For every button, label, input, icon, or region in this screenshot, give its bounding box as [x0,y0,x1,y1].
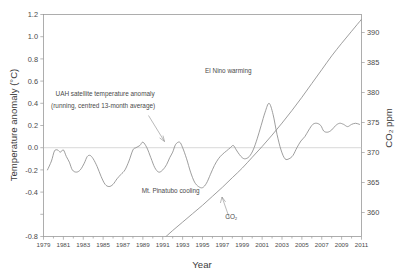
x-tick-label: 1985 [96,241,110,248]
uah-leader-arrowhead [160,136,165,142]
y2-tick-label: 390 [367,28,379,37]
y-tick-label: 0.4 [28,99,38,108]
uah-label-line1: UAH satellite temperature anomaly [56,90,156,98]
y-tick-label: 0.0 [28,143,38,152]
x-tick-label: 2009 [335,241,349,248]
y-tick-label: 0.6 [28,77,38,86]
y-tick-label: 1.2 [28,10,38,19]
plot-frame [44,15,362,237]
x-tick-label: 2007 [315,241,329,248]
x-axis-title: Year [192,259,212,270]
y-axis-ticks [40,15,43,237]
y2-tick-label: 385 [367,58,379,67]
y-axis-title: Temperature anomaly (°C) [8,69,19,182]
x-tick-label: 2005 [295,241,309,248]
y2-tick-label: 370 [367,148,379,157]
y-tick-label: -0.2 [25,166,38,175]
x-tick-label: 1979 [37,241,51,248]
y2-axis-ticks [362,33,365,213]
x-tick-label: 1987 [116,241,130,248]
x-axis-tick-labels: 1979198119831985198719891991199319951997… [37,241,369,248]
x-tick-label: 2001 [255,241,269,248]
el-nino-label: El Nino warming [205,67,252,75]
data-series [47,19,361,239]
uah-label-line2: (running, centred 13-month average) [51,102,155,110]
x-tick-label: 1999 [235,241,249,248]
y-tick-label: 1.0 [28,32,38,41]
x-tick-label: 1993 [176,241,190,248]
y2-tick-label: 380 [367,88,379,97]
x-tick-label: 1981 [56,241,70,248]
y2-axis-tick-labels: 360365370375380385390 [367,28,379,217]
chart-container: 1979198119831985198719891991199319951997… [0,0,403,280]
y-tick-label: 0.8 [28,55,38,64]
x-tick-label: 2011 [355,241,369,248]
y2-axis-title: CO₂ ppm [383,108,394,147]
x-tick-label: 1983 [76,241,90,248]
temperature-co2-line-chart: 1979198119831985198719891991199319951997… [0,0,403,280]
y2-tick-label: 365 [367,178,379,187]
x-tick-label: 1991 [156,241,170,248]
x-tick-label: 1995 [196,241,210,248]
y-axis-tick-labels: -0.8-0.4-0.20.00.20.40.60.81.01.2 [25,10,38,241]
y-tick-label: 0.2 [28,121,38,130]
y-tick-label: -0.4 [25,188,38,197]
y2-tick-label: 375 [367,118,379,127]
series-line-uah-satellite-temperature-anomaly [47,103,359,188]
x-tick-label: 1997 [215,241,229,248]
x-tick-label: 2003 [275,241,289,248]
uah-leader-line [149,116,165,142]
y-tick-label: -0.8 [25,232,38,241]
pinatubo-label: Mt. Pinatubo cooling [142,187,200,195]
y2-tick-label: 360 [367,208,379,217]
co2-label: CO₂ [225,213,238,220]
x-axis-ticks [44,237,362,240]
x-tick-label: 1989 [136,241,150,248]
